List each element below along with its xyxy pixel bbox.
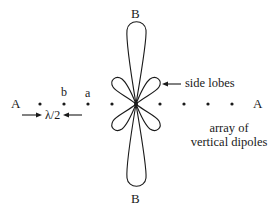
main-lobe-top: [127, 22, 146, 104]
dipole-dot: [206, 102, 209, 105]
dipole-dot: [110, 102, 113, 105]
label-array-line2: vertical dipoles: [186, 136, 272, 150]
label-top-B: B: [131, 7, 140, 20]
radiation-pattern-diagram: [0, 0, 273, 210]
dipole-dot: [38, 102, 41, 105]
main-lobe-bottom: [127, 104, 146, 186]
label-right-A: A: [253, 97, 262, 110]
label-spacing-lambda-half: λ/2: [45, 109, 60, 121]
spacing-arrowhead-right-icon: [36, 113, 42, 118]
dipole-dot-a: [86, 102, 89, 105]
label-bottom-B: B: [131, 192, 140, 205]
side-lobes-arrowhead-icon: [162, 82, 168, 87]
spacing-arrowhead-left-icon: [63, 113, 69, 118]
label-left-A: A: [11, 97, 20, 110]
dipole-dot: [182, 102, 185, 105]
dipole-dot-b: [62, 102, 65, 105]
label-element-a: a: [85, 87, 90, 99]
dipole-dot-center: [134, 102, 138, 106]
label-element-b: b: [61, 86, 67, 98]
dipole-dot: [158, 102, 161, 105]
dipole-dot: [230, 102, 233, 105]
label-side-lobes: side lobes: [185, 77, 235, 90]
label-array-caption: array of vertical dipoles: [186, 122, 272, 150]
label-array-line1: array of: [186, 122, 272, 136]
